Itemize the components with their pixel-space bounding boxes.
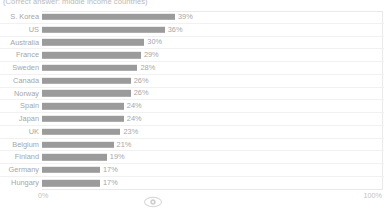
bar [42,141,114,147]
bar-rows: S. Korea39%US36%Australia30%France29%Swe… [0,11,384,190]
bar-value-label: 17% [103,179,118,187]
table-row: S. Korea39% [0,11,384,24]
table-row: Japan24% [0,113,384,126]
bar-value-label: 26% [134,77,149,85]
bar-track: 28% [42,62,383,74]
category-label: S. Korea [0,11,39,24]
table-row: UK23% [0,126,384,139]
bar-track: 26% [42,75,383,87]
bar-value-label: 24% [127,102,142,110]
table-row: Belgium21% [0,139,384,152]
category-label: Australia [0,37,39,50]
bar-track: 23% [42,126,383,138]
category-label: Germany [0,164,39,177]
bar [42,180,100,186]
bar-value-label: 26% [134,89,149,97]
bar-value-label: 39% [178,13,193,21]
category-label: UK [0,126,39,139]
eye-icon[interactable] [143,194,163,206]
category-label: Hungary [0,177,39,190]
bar-track: 17% [42,177,383,190]
bar-value-label: 23% [123,128,138,136]
chart-page: (Correct answer: middle income countries… [0,0,384,215]
bar [42,14,175,20]
category-label: US [0,24,39,37]
category-label: Belgium [0,139,39,152]
bar-track: 24% [42,113,383,125]
table-row: Australia30% [0,37,384,50]
bar-track: 26% [42,88,383,100]
table-row: France29% [0,49,384,62]
chart-subtitle: (Correct answer: middle income countries… [3,0,148,6]
table-row: Finland19% [0,151,384,164]
bar-value-label: 30% [147,38,162,46]
bar [42,90,131,96]
bar-value-label: 28% [140,64,155,72]
x-axis-tick-min: 0% [38,191,48,201]
bar-track: 30% [42,37,383,49]
bar-track: 29% [42,49,383,61]
category-label: France [0,49,39,62]
x-axis-tick-max: 100% [364,191,382,201]
bar-value-label: 36% [168,26,183,34]
bar-value-label: 17% [103,166,118,174]
table-row: Sweden28% [0,62,384,75]
table-row: Spain24% [0,100,384,113]
bar-value-label: 29% [144,51,159,59]
bar-value-label: 19% [110,153,125,161]
bar-track: 17% [42,164,383,176]
bar [42,65,137,71]
category-label: Canada [0,75,39,88]
bar [42,39,144,45]
bar-track: 21% [42,139,383,151]
x-axis: 0% 100% [0,191,384,205]
bar-value-label: 24% [127,115,142,123]
category-label: Norway [0,88,39,101]
bar [42,26,165,32]
bar-track: 24% [42,100,383,112]
bar [42,154,107,160]
table-row: Hungary17% [0,177,384,190]
table-row: Germany17% [0,164,384,177]
bar [42,103,124,109]
table-row: Norway26% [0,88,384,101]
bar-track: 39% [42,11,383,23]
bar [42,78,131,84]
table-row: Canada26% [0,75,384,88]
table-row: US36% [0,24,384,37]
bar-track: 36% [42,24,383,36]
bar-value-label: 21% [117,141,132,149]
category-label: Japan [0,113,39,126]
bar-track: 19% [42,151,383,163]
bar [42,167,100,173]
bar [42,129,120,135]
bar [42,116,124,122]
category-label: Finland [0,151,39,164]
bar [42,52,141,58]
category-label: Spain [0,100,39,113]
category-label: Sweden [0,62,39,75]
